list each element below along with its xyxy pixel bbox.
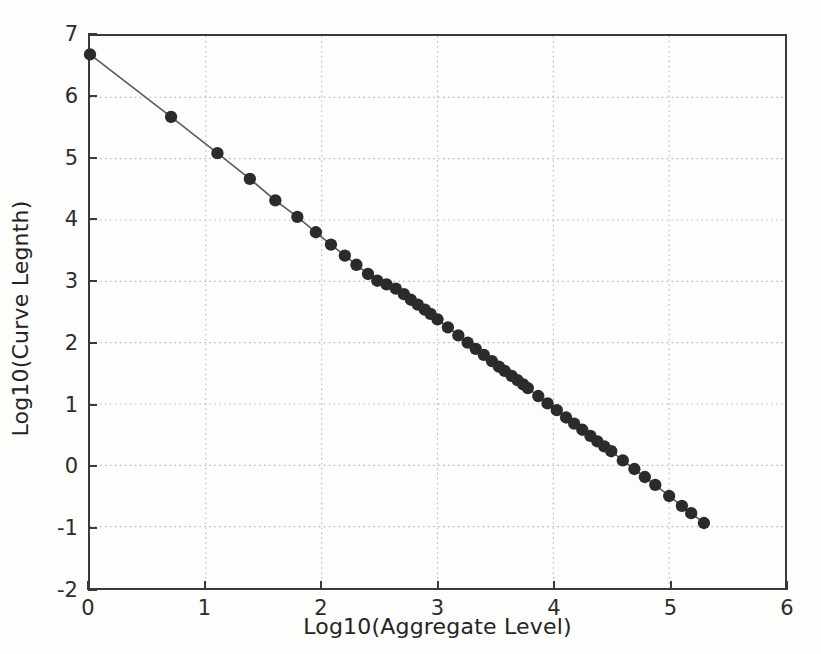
data-point [84, 48, 96, 60]
y-tick-mark [88, 33, 97, 35]
chart-page: -2-1012345670123456 Log10(Aggregate Leve… [0, 0, 821, 654]
y-tick-label: 1 [26, 394, 78, 415]
y-tick-mark [88, 527, 97, 529]
y-tick-mark [88, 95, 97, 97]
data-point [685, 507, 697, 519]
data-point [350, 259, 362, 271]
y-tick-label: 3 [26, 271, 78, 292]
data-point [663, 490, 675, 502]
y-tick-label: 7 [26, 24, 78, 45]
data-point [211, 147, 223, 159]
data-point [442, 321, 454, 333]
y-axis-label: Log10(Curve Legnth) [8, 41, 33, 597]
x-tick-mark [320, 581, 322, 590]
y-tick-mark [88, 218, 97, 220]
x-tick-mark [437, 581, 439, 590]
plot-area [88, 34, 787, 590]
data-point [698, 517, 710, 529]
x-axis-label: Log10(Aggregate Level) [88, 614, 787, 639]
y-tick-label: 6 [26, 85, 78, 106]
x-tick-mark [786, 581, 788, 590]
data-point [605, 445, 617, 457]
data-point [165, 111, 177, 123]
data-point [269, 194, 281, 206]
data-point [310, 226, 322, 238]
data-point [628, 463, 640, 475]
data-point [649, 479, 661, 491]
data-point [639, 471, 651, 483]
y-tick-label: 4 [26, 209, 78, 230]
y-tick-mark [88, 404, 97, 406]
x-tick-mark [670, 581, 672, 590]
y-tick-mark [88, 157, 97, 159]
x-tick-mark [553, 581, 555, 590]
y-tick-mark [88, 280, 97, 282]
data-point [325, 238, 337, 250]
data-point [244, 173, 256, 185]
y-tick-mark [88, 465, 97, 467]
data-point [339, 249, 351, 261]
y-tick-label: 5 [26, 147, 78, 168]
y-tick-label: -1 [26, 518, 78, 539]
y-tick-label: 2 [26, 332, 78, 353]
y-tick-mark [88, 589, 97, 591]
data-point [431, 313, 443, 325]
data-point [291, 211, 303, 223]
x-tick-mark [87, 581, 89, 590]
x-tick-mark [204, 581, 206, 590]
y-tick-label: 0 [26, 456, 78, 477]
y-tick-label: -2 [26, 580, 78, 601]
y-tick-mark [88, 342, 97, 344]
data-point [617, 454, 629, 466]
data-series [90, 36, 785, 588]
data-point [522, 382, 534, 394]
